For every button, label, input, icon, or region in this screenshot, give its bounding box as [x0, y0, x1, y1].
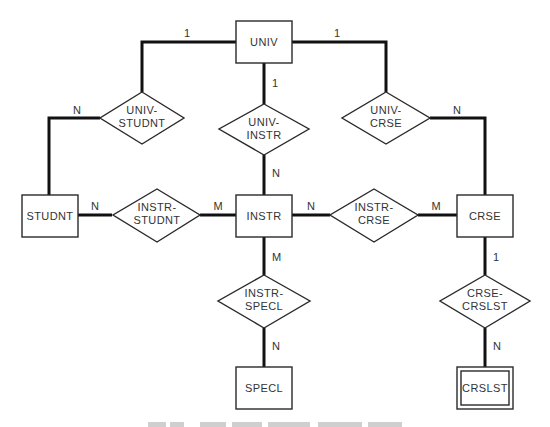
relationship-instr-specl-line2: SPECL	[245, 300, 283, 312]
relationship-instr-specl[interactable]: INSTR- SPECL	[218, 275, 310, 328]
relationship-crse-crslst[interactable]: CRSE- CRSLST	[440, 275, 530, 328]
card-univ-studnt-studnt-side: N	[73, 104, 81, 116]
link-univ-crse-to-crse	[430, 118, 485, 195]
entity-studnt[interactable]: STUDNT	[22, 195, 78, 237]
relationship-instr-crse-line1: INSTR-	[354, 201, 393, 213]
relationship-instr-specl-line1: INSTR-	[244, 287, 283, 299]
card-univ-studnt-univ-side: 1	[184, 27, 190, 39]
card-crse-crslst-crse-side: 1	[493, 251, 499, 263]
link-univ-to-univ-studnt	[142, 42, 236, 92]
card-instr-crse-crse-side: M	[431, 200, 440, 212]
card-instr-studnt-studnt-side: N	[91, 200, 99, 212]
er-diagram: UNIV STUDNT INSTR CRSE SPECL CRSLST UNIV…	[0, 0, 550, 427]
entity-specl[interactable]: SPECL	[236, 367, 292, 409]
relationship-instr-studnt-line2: STUDNT	[133, 214, 180, 226]
relationship-univ-studnt[interactable]: UNIV- STUDNT	[100, 92, 184, 144]
card-crse-crslst-crslst-side: N	[493, 340, 501, 352]
entity-univ-label: UNIV	[250, 36, 278, 48]
entity-crse-label: CRSE	[469, 210, 501, 222]
relationship-instr-crse-line2: CRSE	[358, 214, 390, 226]
relationship-univ-studnt-line2: STUDNT	[118, 117, 165, 129]
relationship-univ-crse-line2: CRSE	[370, 117, 402, 129]
relationship-univ-instr[interactable]: UNIV- INSTR	[219, 104, 309, 155]
entity-crslst-weak[interactable]: CRSLST	[457, 367, 513, 409]
card-instr-specl-instr-side: M	[272, 251, 281, 263]
relationship-univ-studnt-line1: UNIV-	[126, 104, 157, 116]
relationship-crse-crslst-line1: CRSE-	[467, 287, 503, 299]
relationship-instr-studnt-line1: INSTR-	[137, 201, 176, 213]
card-univ-crse-univ-side: 1	[334, 27, 340, 39]
relationship-crse-crslst-line2: CRSLST	[462, 300, 508, 312]
relationship-univ-crse[interactable]: UNIV- CRSE	[342, 92, 430, 144]
card-univ-crse-crse-side: N	[453, 104, 461, 116]
relationship-univ-instr-line1: UNIV-	[248, 116, 279, 128]
entity-studnt-label: STUDNT	[26, 210, 73, 222]
link-univ-to-univ-crse	[292, 42, 386, 92]
entity-instr-label: INSTR	[247, 210, 282, 222]
entity-univ[interactable]: UNIV	[236, 21, 292, 63]
link-univ-studnt-to-studnt	[49, 118, 100, 195]
caption-remnant	[148, 422, 402, 427]
card-univ-instr-instr-side: N	[272, 167, 280, 179]
entity-specl-label: SPECL	[245, 382, 283, 394]
relationship-instr-crse[interactable]: INSTR- CRSE	[330, 189, 418, 242]
card-instr-crse-instr-side: N	[307, 200, 315, 212]
relationship-instr-studnt[interactable]: INSTR- STUDNT	[113, 189, 200, 242]
card-instr-studnt-instr-side: M	[213, 200, 222, 212]
relationship-univ-instr-line2: INSTR	[247, 129, 282, 141]
entity-crslst-label: CRSLST	[462, 382, 508, 394]
card-univ-instr-univ-side: 1	[272, 77, 278, 89]
entity-crse[interactable]: CRSE	[457, 195, 513, 237]
entity-instr[interactable]: INSTR	[236, 195, 292, 237]
relationship-univ-crse-line1: UNIV-	[370, 104, 401, 116]
card-instr-specl-specl-side: N	[272, 340, 280, 352]
